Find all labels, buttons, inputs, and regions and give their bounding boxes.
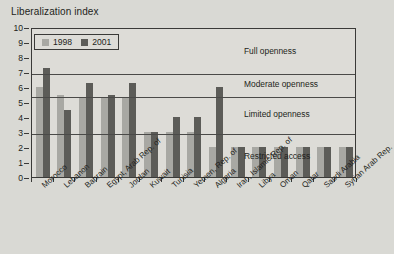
bar-2001 bbox=[194, 117, 201, 177]
y-axis-tick-mark bbox=[24, 103, 29, 104]
y-axis-tick-label: 7 bbox=[1, 68, 23, 78]
y-axis-tick-label: 4 bbox=[1, 113, 23, 123]
y-axis-tick-label: 6 bbox=[1, 83, 23, 93]
legend-item-2001[interactable]: 2001 bbox=[81, 37, 111, 47]
y-axis-tick-label: 3 bbox=[1, 128, 23, 138]
y-axis-tick-mark bbox=[24, 88, 29, 89]
y-axis-tick-label: 1 bbox=[1, 158, 23, 168]
y-axis-tick-mark bbox=[24, 118, 29, 119]
bar-2001 bbox=[324, 147, 331, 177]
legend-label: 1998 bbox=[53, 37, 72, 47]
x-axis-labels: MoroccoLebanonBahrainEgypt, Arab Rep. of… bbox=[0, 178, 370, 254]
gridline bbox=[32, 134, 355, 135]
gridline bbox=[32, 74, 355, 75]
bar-group bbox=[314, 29, 336, 177]
bar-2001 bbox=[108, 95, 115, 178]
bar-group bbox=[97, 29, 119, 177]
chart-legend: 19982001 bbox=[34, 34, 119, 50]
gridline bbox=[32, 97, 355, 98]
y-axis-tick-mark bbox=[24, 28, 29, 29]
zone-label: Full openness bbox=[244, 46, 296, 56]
y-axis-tick-mark bbox=[24, 43, 29, 44]
y-axis-tick-mark bbox=[24, 73, 29, 74]
legend-label: 2001 bbox=[92, 37, 111, 47]
chart-title: Liberalization index bbox=[11, 6, 99, 17]
legend-swatch-icon bbox=[42, 39, 49, 46]
bar-group bbox=[32, 29, 54, 177]
bar-1998 bbox=[317, 147, 324, 177]
y-axis-tick-label: 2 bbox=[1, 143, 23, 153]
y-axis-tick-mark bbox=[24, 133, 29, 134]
legend-item-1998[interactable]: 1998 bbox=[42, 37, 72, 47]
legend-swatch-icon bbox=[81, 39, 88, 46]
bar-2001 bbox=[173, 117, 180, 177]
zone-label: Moderate openness bbox=[244, 79, 318, 89]
y-axis-tick-label: 8 bbox=[1, 53, 23, 63]
bar-group bbox=[162, 29, 184, 177]
bar-group bbox=[54, 29, 76, 177]
bar-2001 bbox=[43, 68, 50, 178]
y-axis-tick-mark bbox=[24, 148, 29, 149]
bar-group bbox=[75, 29, 97, 177]
bar-group bbox=[184, 29, 206, 177]
zone-label: Limited openness bbox=[244, 109, 310, 119]
y-axis-tick-mark bbox=[24, 163, 29, 164]
plot-area: Full opennessModerate opennessLimited op… bbox=[31, 28, 356, 178]
y-axis-tick-label: 5 bbox=[1, 98, 23, 108]
y-axis: 012345678910 bbox=[0, 28, 31, 178]
y-axis-tick-mark bbox=[24, 58, 29, 59]
bar-1998 bbox=[36, 87, 43, 177]
y-axis-tick-label: 9 bbox=[1, 38, 23, 48]
y-axis-tick-label: 10 bbox=[1, 23, 23, 33]
plot-wrapper: Full opennessModerate opennessLimited op… bbox=[31, 28, 356, 178]
